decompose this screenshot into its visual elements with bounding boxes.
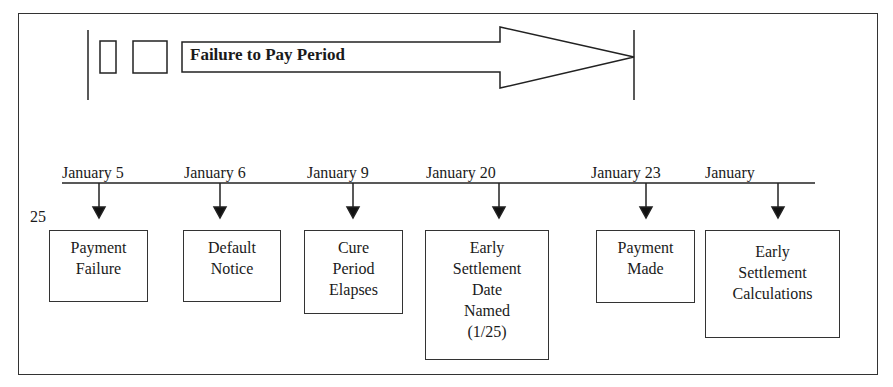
date-label: January 23 — [591, 164, 661, 182]
date-label: January 9 — [307, 164, 369, 182]
event-box-early-settlement-date: Early Settlement Date Named (1/25) — [425, 230, 549, 360]
small-box-1 — [100, 41, 116, 73]
date-label: January 6 — [184, 164, 246, 182]
event-box-early-settlement-calculations: Early Settlement Calculations — [705, 230, 840, 338]
date-label: January 5 — [62, 164, 124, 182]
timeline-arrows — [93, 183, 784, 218]
event-box-default-notice: Default Notice — [183, 230, 281, 302]
event-box-payment-failure: Payment Failure — [49, 230, 148, 302]
date-label: January 20 — [426, 164, 496, 182]
event-box-cure-period: Cure Period Elapses — [304, 230, 403, 314]
stray-text: 25 — [30, 208, 46, 226]
period-label: Failure to Pay Period — [190, 45, 345, 65]
event-box-payment-made: Payment Made — [596, 230, 695, 303]
date-label: January — [705, 164, 755, 182]
small-box-2 — [133, 41, 167, 73]
